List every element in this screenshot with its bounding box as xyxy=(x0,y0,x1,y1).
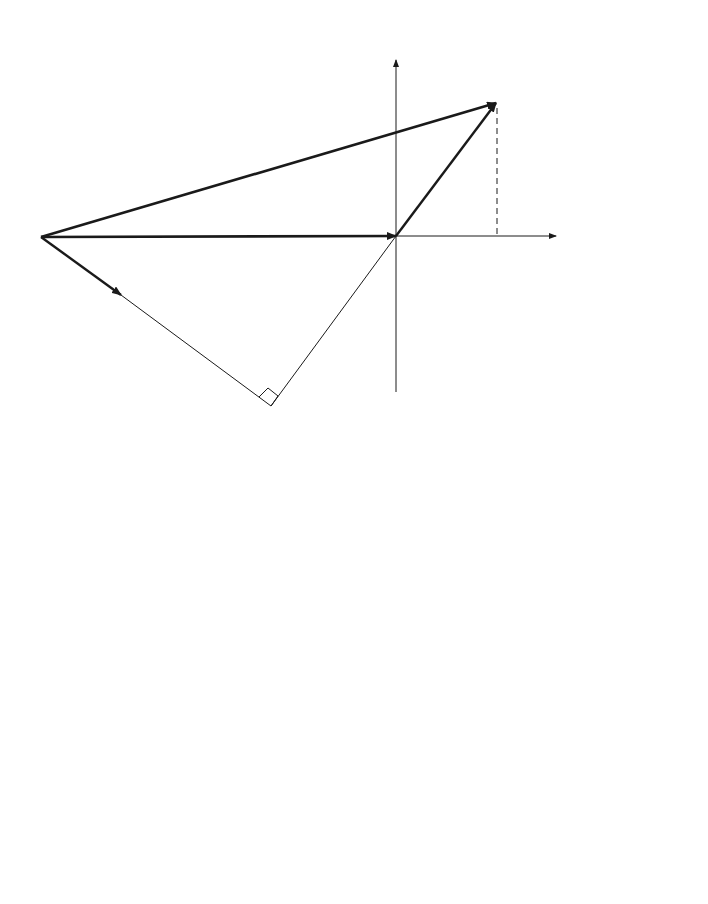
a-vphi-phasor xyxy=(41,236,396,237)
phasor-lines xyxy=(0,0,708,904)
